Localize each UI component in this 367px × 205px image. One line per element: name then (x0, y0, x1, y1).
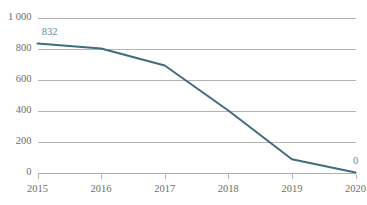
y-axis-tick-label: 0 (26, 166, 31, 177)
chart-canvas: 02004006008001 000 201520162017201820192… (0, 0, 367, 205)
data-point-label: 0 (353, 155, 358, 166)
y-axis-tick-label: 200 (16, 135, 32, 146)
x-axis-tick-label: 2015 (27, 183, 48, 194)
data-point-labels: 8320 (42, 26, 359, 166)
x-axis-tick-label: 2019 (281, 183, 302, 194)
line-chart-figure: 02004006008001 000 201520162017201820192… (0, 0, 367, 205)
axis-tick-marks (39, 174, 357, 179)
x-axis-tick-labels: 201520162017201820192020 (27, 183, 366, 194)
x-axis-tick-label: 2018 (218, 183, 239, 194)
y-axis-tick-labels: 02004006008001 000 (8, 11, 32, 177)
x-axis-tick-label: 2016 (91, 183, 112, 194)
y-axis-tick-label: 800 (16, 42, 32, 53)
x-axis-tick-label: 2020 (345, 183, 366, 194)
gridlines (38, 19, 356, 174)
x-axis-tick-label: 2017 (154, 183, 175, 194)
data-point-label: 832 (42, 26, 58, 37)
data-series (38, 44, 356, 173)
y-axis-tick-label: 400 (16, 104, 32, 115)
y-axis-tick-label: 600 (16, 73, 32, 84)
y-axis-tick-label: 1 000 (8, 11, 32, 22)
series-line (38, 44, 356, 173)
